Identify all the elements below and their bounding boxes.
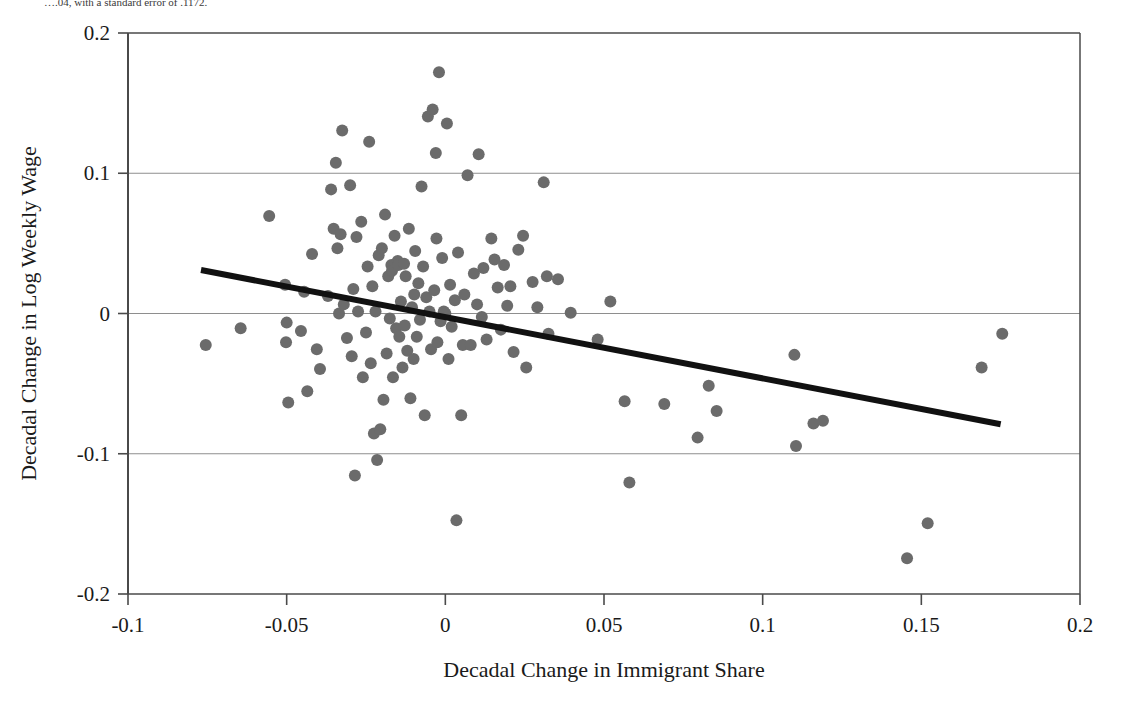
data-point: [458, 289, 470, 301]
data-point: [619, 395, 631, 407]
data-point: [346, 350, 358, 362]
data-point: [417, 261, 429, 273]
data-point: [379, 209, 391, 221]
data-point: [366, 280, 378, 292]
data-point: [396, 362, 408, 374]
data-point: [441, 117, 453, 129]
data-point: [520, 362, 532, 374]
data-point: [376, 242, 388, 254]
data-point: [817, 415, 829, 427]
data-point: [335, 228, 347, 240]
data-point: [325, 183, 337, 195]
data-point: [400, 270, 412, 282]
data-point: [409, 245, 421, 257]
data-point: [901, 552, 913, 564]
data-point: [527, 276, 539, 288]
x-tick-label: 0.05: [586, 613, 623, 637]
data-point: [282, 397, 294, 409]
data-point: [703, 380, 715, 392]
y-tick-label: -0.1: [77, 442, 110, 466]
data-point: [419, 409, 431, 421]
data-point: [922, 517, 934, 529]
data-point: [565, 307, 577, 319]
data-point: [411, 331, 423, 343]
data-point: [393, 331, 405, 343]
data-point: [504, 280, 516, 292]
data-point: [403, 223, 415, 235]
data-point: [430, 232, 442, 244]
data-point: [281, 317, 293, 329]
y-tick-label: 0.1: [84, 161, 110, 185]
data-point: [492, 282, 504, 294]
x-tick-label: -0.05: [265, 613, 309, 637]
data-point: [398, 258, 410, 270]
data-point: [301, 385, 313, 397]
data-point: [280, 336, 292, 348]
x-axis-title: Decadal Change in Immigrant Share: [443, 657, 764, 682]
data-point: [552, 273, 564, 285]
data-point: [430, 147, 442, 159]
data-point: [365, 357, 377, 369]
data-point: [331, 242, 343, 254]
data-point: [200, 339, 212, 351]
data-point: [381, 347, 393, 359]
data-point: [427, 103, 439, 115]
data-point: [517, 230, 529, 242]
x-tick-label: -0.1: [111, 613, 144, 637]
data-point: [336, 124, 348, 136]
data-point: [404, 392, 416, 404]
data-point: [444, 279, 456, 291]
data-point: [341, 332, 353, 344]
data-point: [431, 336, 443, 348]
y-axis: -0.2-0.100.10.2: [77, 21, 128, 606]
data-point: [477, 262, 489, 274]
data-point: [531, 301, 543, 313]
data-point: [604, 296, 616, 308]
data-points: [200, 66, 1009, 564]
data-point: [384, 312, 396, 324]
data-point: [344, 179, 356, 191]
data-point: [306, 248, 318, 260]
data-point: [389, 230, 401, 242]
data-point: [349, 469, 361, 481]
data-point: [465, 339, 477, 351]
data-point: [412, 277, 424, 289]
data-point: [350, 231, 362, 243]
data-point: [330, 157, 342, 169]
x-axis: -0.1-0.0500.050.10.150.2: [111, 594, 1093, 637]
data-point: [263, 210, 275, 222]
y-tick-label: 0.2: [84, 21, 110, 45]
data-point: [471, 298, 483, 310]
data-point: [485, 232, 497, 244]
x-tick-label: 0: [440, 613, 451, 637]
data-point: [311, 343, 323, 355]
data-point: [295, 325, 307, 337]
data-point: [538, 176, 550, 188]
data-point: [462, 169, 474, 181]
y-tick-label: -0.2: [77, 582, 110, 606]
data-point: [623, 477, 635, 489]
data-point: [363, 136, 375, 148]
data-point: [433, 66, 445, 78]
data-point: [443, 353, 455, 365]
y-tick-label: 0: [100, 302, 111, 326]
data-point: [692, 432, 704, 444]
data-point: [541, 270, 553, 282]
data-point: [658, 398, 670, 410]
data-point: [408, 289, 420, 301]
data-point: [498, 259, 510, 271]
data-point: [362, 261, 374, 273]
data-point: [501, 300, 513, 312]
chart-canvas: -0.2-0.100.10.2-0.1-0.0500.050.10.150.2D…: [0, 0, 1125, 704]
x-tick-label: 0.2: [1067, 613, 1093, 637]
data-point: [399, 319, 411, 331]
data-point: [371, 454, 383, 466]
data-point: [452, 246, 464, 258]
data-point: [790, 440, 802, 452]
x-tick-label: 0.1: [750, 613, 776, 637]
data-point: [450, 514, 462, 526]
data-point: [387, 371, 399, 383]
data-point: [711, 405, 723, 417]
data-point: [481, 333, 493, 345]
scatter-plot-figure: -0.2-0.100.10.2-0.1-0.0500.050.10.150.2D…: [0, 0, 1125, 704]
